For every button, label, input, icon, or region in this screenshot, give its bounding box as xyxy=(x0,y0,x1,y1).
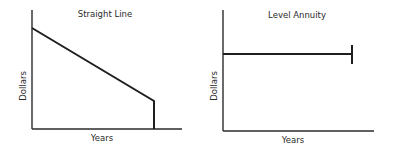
chart-title: Level Annuity xyxy=(268,10,326,20)
declining-payment-line xyxy=(32,28,154,129)
x-axis-label: Years xyxy=(281,135,305,145)
figure: Straight Line Dollars Years Level Annuit… xyxy=(0,0,395,152)
chart-level-annuity: Level Annuity Dollars Years xyxy=(209,10,374,145)
x-axis-label: Years xyxy=(90,133,114,143)
y-axis-label: Dollars xyxy=(209,71,219,101)
chart-title: Straight Line xyxy=(78,9,132,19)
chart-straight-line: Straight Line Dollars Years xyxy=(18,9,182,143)
y-axis-label: Dollars xyxy=(18,71,28,101)
